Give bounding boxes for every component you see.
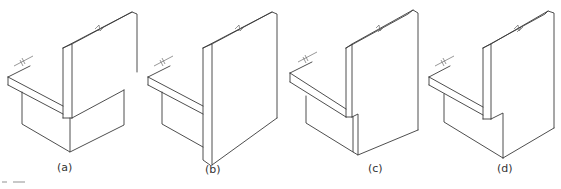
panel-d-label: (d) (497, 162, 513, 175)
panel-c-label: (c) (368, 162, 383, 175)
isometric-sketches (0, 0, 561, 189)
break-symbol-icon (435, 56, 454, 66)
panel-a-drawing (8, 12, 137, 152)
break-symbol-icon (14, 56, 33, 66)
panel-b-drawing (148, 12, 277, 165)
break-symbol-icon (298, 52, 317, 63)
panel-a-label: (a) (57, 161, 72, 174)
figure: (a) (b) (c) (d) (0, 0, 561, 189)
panel-d-drawing (429, 11, 554, 158)
panel-b-label: (b) (205, 163, 221, 176)
break-symbol-icon (154, 56, 173, 66)
caption-fragment (2, 181, 42, 185)
panel-c-drawing (290, 10, 418, 155)
